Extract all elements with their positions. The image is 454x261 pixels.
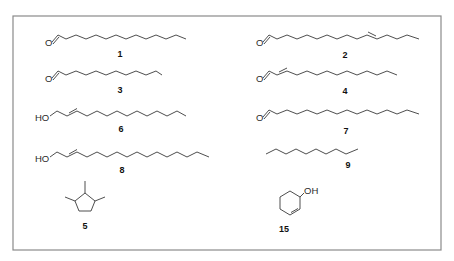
compound-label: 4 xyxy=(342,86,347,96)
figure-frame xyxy=(13,16,441,250)
compound-label: 9 xyxy=(345,160,350,170)
hydroxyl-atom: OH xyxy=(304,185,318,196)
compound-label: 7 xyxy=(343,126,348,136)
compound-label: 15 xyxy=(279,224,289,234)
compound-label: 2 xyxy=(342,50,347,60)
compound-label: 6 xyxy=(118,124,123,134)
compound-label: 8 xyxy=(119,165,124,175)
oxygen-atom: O xyxy=(45,73,52,84)
compound-label: 5 xyxy=(82,221,87,231)
oxygen-atom: O xyxy=(256,112,263,123)
hydroxyl-atom: HO xyxy=(35,153,49,164)
oxygen-atom: O xyxy=(256,73,263,84)
hydroxyl-atom: HO xyxy=(35,112,49,123)
structures-figure: O 1 O 3 HO 6 HO 8 5 O xyxy=(0,0,454,261)
oxygen-atom: O xyxy=(45,37,52,48)
compound-label: 1 xyxy=(117,49,122,59)
compound-label: 3 xyxy=(117,85,122,95)
oxygen-atom: O xyxy=(256,37,263,48)
